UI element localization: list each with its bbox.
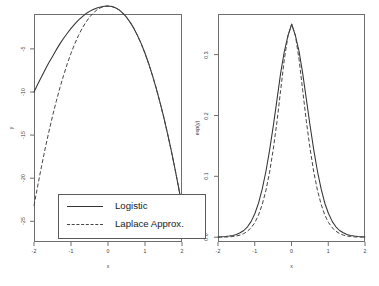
- y-tick-label-left-0: -5: [21, 46, 26, 51]
- legend-label-logistic: Logistic: [115, 201, 148, 211]
- x-tick-label-left-4: 2: [181, 249, 184, 254]
- plot-curves-left: [0, 0, 190, 286]
- legend-entry-laplace: Laplace Approx.: [67, 218, 184, 230]
- legend: Logistic Laplace Approx.: [58, 194, 206, 239]
- x-tick-label-right-1: -1: [252, 249, 257, 254]
- curve-logistic-right: [218, 24, 365, 237]
- y-axis-ticks-right: [214, 55, 218, 238]
- legend-label-laplace: Laplace Approx.: [115, 219, 184, 229]
- y-tick-label-right-2: 0.2: [204, 112, 209, 120]
- x-tick-label-left-2: 0: [107, 249, 110, 254]
- panel-right: 0.0 0.1 0.2 0.3 -2 -1 0 1 2 x exp(y): [190, 0, 379, 286]
- x-tick-label-right-0: -2: [216, 249, 221, 254]
- curve-logistic-left: [34, 6, 182, 206]
- y-tick-label-right-1: 0.1: [204, 173, 209, 181]
- x-axis-title-left: x: [107, 264, 110, 269]
- panel-left: -5 -10 -15 -20 -25 -2 -1 0 1 2 x y: [0, 0, 190, 286]
- legend-entry-logistic: Logistic: [67, 200, 148, 212]
- y-tick-label-left-3: -20: [21, 174, 26, 182]
- y-tick-label-left-4: -25: [21, 217, 26, 225]
- y-axis-title-left: y: [9, 127, 14, 130]
- figure-canvas: -5 -10 -15 -20 -25 -2 -1 0 1 2 x y: [0, 0, 379, 286]
- x-axis-ticks-left: [34, 242, 182, 246]
- x-tick-label-right-3: 1: [327, 249, 330, 254]
- plot-curves-right: [190, 0, 379, 286]
- curve-laplace-right: [218, 24, 365, 237]
- y-axis-ticks-left: [30, 49, 34, 221]
- x-tick-label-left-0: -2: [32, 249, 37, 254]
- y-tick-label-left-1: -10: [21, 88, 26, 96]
- x-tick-label-right-4: 2: [364, 249, 367, 254]
- y-axis-title-right: exp(y): [195, 121, 200, 135]
- legend-key-dashed-line: [67, 219, 103, 229]
- x-axis-ticks-right: [218, 242, 365, 246]
- x-tick-label-left-1: -1: [69, 249, 74, 254]
- legend-key-solid-line: [67, 201, 103, 211]
- x-tick-label-right-2: 0: [290, 249, 293, 254]
- x-axis-title-right: x: [290, 264, 293, 269]
- curve-laplace-left: [34, 6, 182, 206]
- y-tick-label-left-2: -15: [21, 131, 26, 139]
- y-tick-label-right-3: 0.3: [204, 51, 209, 59]
- x-tick-label-left-3: 1: [144, 249, 147, 254]
